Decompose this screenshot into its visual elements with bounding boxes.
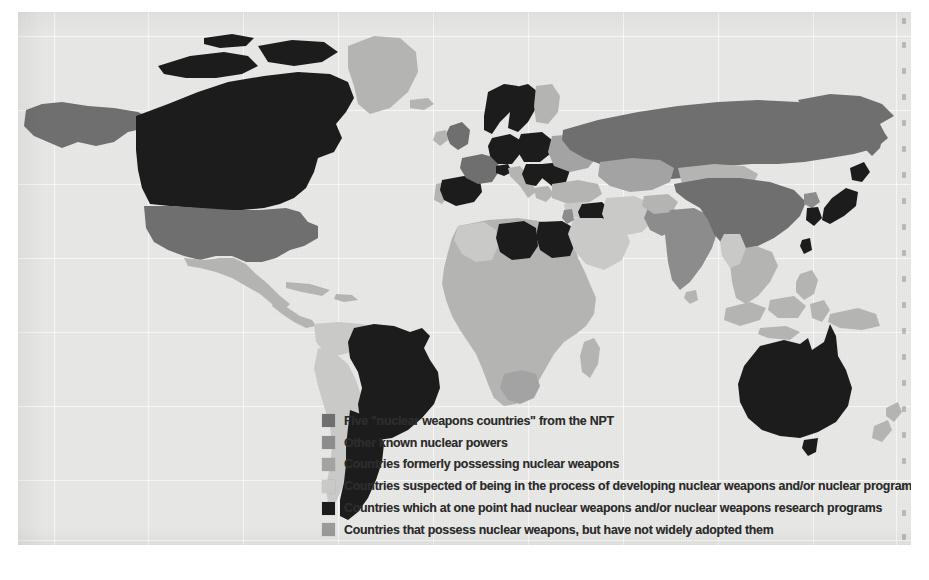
country-indonesia-borneo: [768, 296, 806, 318]
figure-page: Five "nuclear weapons countries" from th…: [0, 0, 929, 580]
country-poland: [518, 132, 552, 162]
country-finland: [534, 84, 560, 124]
legend-item-possess-not-adopted: Countries that possess nuclear weapons, …: [322, 519, 911, 541]
country-sweden: [508, 84, 538, 132]
country-kazakhstan: [598, 158, 674, 192]
country-united-kingdom: [446, 122, 470, 150]
country-canada-arctic-1: [158, 52, 258, 78]
world-map-figure: Five "nuclear weapons countries" from th…: [18, 12, 911, 545]
country-japan-honshu: [822, 188, 858, 224]
legend-label-suspected-developing: Countries suspected of being in the proc…: [344, 479, 911, 493]
country-sri-lanka: [684, 290, 698, 304]
legend-item-npt-five: Five "nuclear weapons countries" from th…: [322, 410, 911, 432]
legend-label-npt-five: Five "nuclear weapons countries" from th…: [344, 414, 614, 428]
page-left-margin: [0, 0, 18, 580]
legend-swatch-suspected-developing: [322, 480, 335, 493]
legend-item-had-programs: Countries which at one point had nuclear…: [322, 497, 911, 519]
legend-swatch-npt-five: [322, 414, 335, 427]
region-cuba: [286, 282, 330, 296]
country-madagascar: [580, 338, 600, 378]
country-indonesia-sumatra: [724, 302, 766, 326]
country-papua-new-guinea: [828, 308, 880, 330]
legend-label-formerly-possessing: Countries formerly possessing nuclear we…: [344, 457, 619, 471]
region-central-america: [272, 300, 316, 328]
country-philippines: [796, 270, 818, 300]
country-indonesia-java: [758, 326, 800, 340]
legend-label-had-programs: Countries which at one point had nuclear…: [344, 501, 882, 515]
country-israel: [562, 209, 574, 224]
country-united-states: [144, 206, 318, 262]
legend-item-suspected-developing: Countries suspected of being in the proc…: [322, 475, 911, 497]
legend-item-other-known: Other known nuclear powers: [322, 432, 911, 454]
country-taiwan: [800, 238, 812, 254]
country-ireland: [433, 130, 448, 146]
legend-label-other-known: Other known nuclear powers: [344, 436, 508, 450]
country-iceland: [410, 98, 434, 110]
legend-swatch-formerly-possessing: [322, 458, 335, 471]
country-canada-arctic-2: [258, 40, 338, 66]
country-japan: [850, 162, 870, 182]
country-south-korea: [806, 207, 822, 226]
legend-label-possess-not-adopted: Countries that possess nuclear weapons, …: [344, 523, 774, 537]
country-alaska: [24, 102, 150, 148]
legend-item-formerly-possessing: Countries formerly possessing nuclear we…: [322, 454, 911, 476]
legend-swatch-other-known: [322, 436, 335, 449]
country-canada-arctic-3: [204, 34, 254, 48]
country-canada: [136, 72, 354, 210]
legend-swatch-had-programs: [322, 502, 335, 515]
region-greenland: [348, 36, 418, 114]
legend-swatch-possess-not-adopted: [322, 523, 335, 536]
country-turkey: [552, 180, 602, 204]
region-hispaniola: [334, 294, 358, 302]
country-north-korea: [804, 192, 820, 208]
region-greece: [534, 186, 554, 202]
map-legend: Five "nuclear weapons countries" from th…: [322, 410, 911, 541]
country-indonesia-sulawesi: [810, 300, 830, 322]
